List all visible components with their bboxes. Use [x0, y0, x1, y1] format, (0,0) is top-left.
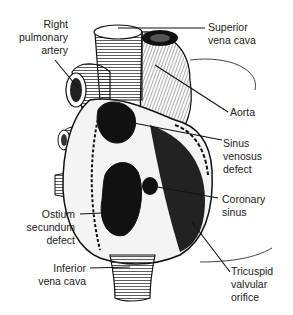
- label-right-pulmonary-artery: Right pulmonary artery: [19, 18, 68, 57]
- inferior-vena-cava-vessel: [110, 255, 155, 301]
- label-inferior-vena-cava: Inferior vena cava: [38, 262, 86, 288]
- leader-tricuspid-valvular-orifice: [192, 222, 230, 272]
- label-coronary-sinus: Coronary sinus: [222, 193, 265, 219]
- label-tricuspid-valvular-orifice: Tricuspid valvular orifice: [231, 265, 273, 304]
- label-ostium-secundum-defect: Ostium secundum defect: [27, 208, 75, 247]
- label-sinus-venosus-defect: Sinus venosus defect: [223, 137, 262, 176]
- label-superior-vena-cava: Superior vena cava: [208, 21, 256, 47]
- coronary-sinus-opening: [142, 177, 158, 195]
- label-aorta: Aorta: [230, 106, 255, 119]
